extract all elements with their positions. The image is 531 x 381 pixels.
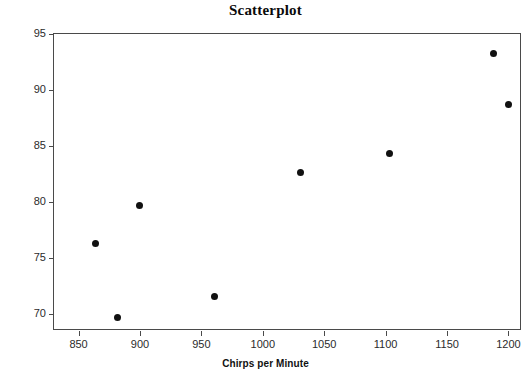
data-point: [114, 314, 121, 321]
data-point: [490, 50, 497, 57]
y-tick-mark: [49, 90, 54, 91]
x-tick-mark: [324, 331, 325, 336]
x-tick-mark: [79, 331, 80, 336]
data-point: [386, 150, 393, 157]
x-tick-mark: [508, 331, 509, 336]
x-tick-mark: [447, 331, 448, 336]
y-tick-label: 70: [34, 307, 46, 319]
y-tick-mark: [49, 202, 54, 203]
scatterplot-figure: Scatterplot Temperature 707580859095 850…: [0, 0, 531, 381]
x-tick-label: 1200: [496, 338, 520, 350]
chart-title: Scatterplot: [0, 2, 531, 19]
x-tick-label: 850: [69, 338, 87, 350]
x-tick-label: 1100: [374, 338, 398, 350]
y-tick-label: 80: [34, 195, 46, 207]
y-tick-mark: [49, 314, 54, 315]
y-tick-mark: [49, 258, 54, 259]
y-tick-label: 95: [34, 27, 46, 39]
y-tick-label: 75: [34, 251, 46, 263]
y-tick-label: 85: [34, 139, 46, 151]
data-point: [505, 101, 512, 108]
x-tick-label: 950: [192, 338, 210, 350]
y-tick-label: 90: [34, 83, 46, 95]
x-tick-mark: [201, 331, 202, 336]
plot-area: 707580859095 850900950100010501100115012…: [53, 33, 521, 330]
x-tick-mark: [386, 331, 387, 336]
x-axis-label: Chirps per Minute: [0, 358, 531, 369]
y-tick-mark: [49, 34, 54, 35]
data-point: [297, 169, 304, 176]
data-point: [211, 293, 218, 300]
x-tick-label: 1050: [312, 338, 336, 350]
x-tick-label: 1000: [251, 338, 275, 350]
data-point: [136, 202, 143, 209]
x-tick-mark: [140, 331, 141, 336]
data-point: [92, 240, 99, 247]
x-tick-label: 1150: [435, 338, 459, 350]
x-tick-mark: [263, 331, 264, 336]
x-tick-label: 900: [131, 338, 149, 350]
y-tick-mark: [49, 146, 54, 147]
